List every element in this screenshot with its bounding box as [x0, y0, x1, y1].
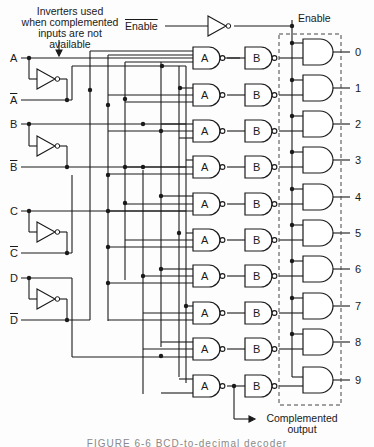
output-6: 6: [355, 263, 361, 275]
gate-a-0: A: [201, 52, 208, 64]
output-9: 9: [355, 374, 361, 386]
note-line-3: inputs are not available: [20, 28, 120, 50]
gate-b-3: B: [253, 161, 260, 173]
inverters-note: Inverters used when complemented inputs …: [20, 6, 120, 50]
input-b-bar-label: B: [10, 161, 17, 173]
gate-b-7: B: [253, 307, 260, 319]
enable-bus-label: Enable: [298, 12, 331, 24]
gate-a-3: A: [201, 161, 208, 173]
input-a-label: A: [10, 52, 17, 64]
output-8: 8: [355, 336, 361, 348]
input-c-label: C: [10, 205, 18, 217]
output-1: 1: [355, 82, 361, 94]
complemented-output-label: Complemented output: [262, 413, 342, 435]
gate-b-8: B: [253, 343, 260, 355]
bcd-decoder-diagram: Inverters used when complemented inputs …: [0, 0, 374, 447]
gate-a-6: A: [201, 270, 208, 282]
gate-b-0: B: [253, 52, 260, 64]
input-a-bar-label: A: [10, 94, 17, 106]
gate-b-6: B: [253, 270, 260, 282]
input-d-label: D: [10, 272, 18, 284]
gate-b-5: B: [253, 234, 260, 246]
complemented-line-2: output: [262, 424, 342, 435]
circuit-schematic: [0, 0, 374, 447]
gate-b-2: B: [253, 125, 260, 137]
gate-b-9: B: [253, 380, 260, 392]
gate-a-4: A: [201, 198, 208, 210]
input-c-bar-label: C: [10, 247, 18, 259]
output-2: 2: [355, 118, 361, 130]
gate-a-9: A: [201, 380, 208, 392]
output-4: 4: [355, 191, 361, 203]
output-0: 0: [355, 46, 361, 58]
gate-b-4: B: [253, 198, 260, 210]
figure-caption: FIGURE 6-6 BCD-to-decimal decoder: [0, 438, 374, 447]
gate-a-5: A: [201, 234, 208, 246]
input-b-label: B: [10, 118, 17, 130]
output-3: 3: [355, 154, 361, 166]
gate-a-2: A: [201, 125, 208, 137]
output-7: 7: [355, 300, 361, 312]
gate-a-7: A: [201, 307, 208, 319]
input-d-bar-label: D: [10, 314, 18, 326]
gate-a-8: A: [201, 343, 208, 355]
gate-b-1: B: [253, 89, 260, 101]
enable-bar-label: Enable: [125, 20, 158, 32]
output-5: 5: [355, 227, 361, 239]
gate-a-1: A: [201, 89, 208, 101]
